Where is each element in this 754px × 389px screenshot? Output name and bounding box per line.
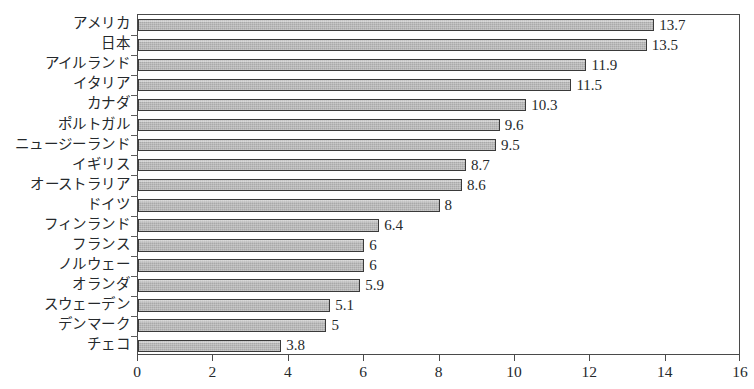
category-label: オランダ [0,277,130,292]
bar-value-label: 9.6 [505,116,524,134]
bar [138,119,500,131]
value-axis-tick [137,355,138,361]
bar [138,340,281,352]
bar-value-label: 6 [369,256,377,274]
bar-row: 8.7 [138,155,739,175]
value-axis: 0246810121416 [137,355,740,389]
bar-row: 5 [138,316,739,336]
value-axis-tick [439,355,440,361]
value-axis-tick-label: 12 [582,364,598,380]
category-label: ドイツ [0,197,130,212]
bar [138,99,526,111]
bar-row: 10.3 [138,95,739,115]
category-label: カナダ [0,96,130,111]
bar-row: 6 [138,236,739,256]
category-label: ポルトガル [0,117,130,132]
bar-value-label: 8.7 [471,156,490,174]
bar-value-label: 8.6 [467,176,486,194]
bar-row: 5.9 [138,276,739,296]
category-axis-tick [131,55,138,56]
bar-value-label: 9.5 [501,136,520,154]
bar [138,239,364,251]
category-axis-tick [131,296,138,297]
category-label: アイルランド [0,56,130,71]
plot-area: 13.713.511.911.510.39.69.58.78.686.4665.… [137,14,740,355]
value-axis-tick-label: 14 [657,364,673,380]
bar-row: 13.5 [138,35,739,55]
category-label: スウェーデン [0,297,130,312]
category-label: イタリア [0,76,130,91]
value-axis-tick-label: 10 [506,364,522,380]
bar-row: 11.9 [138,55,739,75]
value-axis-tick-label: 6 [359,364,367,380]
bar-row: 8.6 [138,175,739,195]
category-axis-tick [131,75,138,76]
category-label: 日本 [0,36,130,51]
category-axis-tick [131,336,138,337]
bar [138,159,466,171]
value-axis-tick-label: 8 [435,364,443,380]
bar-value-label: 5 [331,316,339,334]
bar-row: 3.8 [138,336,739,356]
category-label: イギリス [0,157,130,172]
bar [138,19,654,31]
value-axis-tick [514,355,515,361]
category-axis-tick [131,95,138,96]
bar-value-label: 13.7 [659,16,685,34]
bar [138,299,330,311]
bar-value-label: 11.9 [591,56,617,74]
bar [138,179,462,191]
bar [138,79,571,91]
category-label: アメリカ [0,16,130,31]
bar-value-label: 11.5 [576,76,602,94]
bar-row: 6 [138,256,739,276]
category-axis-tick [131,175,138,176]
bar-row: 13.7 [138,15,739,35]
bar [138,259,364,271]
category-label: ノルウェー [0,257,130,272]
bar-row: 9.5 [138,135,739,155]
category-axis-tick [131,196,138,197]
bar [138,139,496,151]
value-axis-tick-label: 16 [732,364,748,380]
category-label: ニュージーランド [0,137,130,152]
bar [138,279,360,291]
bar-chart: アメリカ日本アイルランドイタリアカナダポルトガルニュージーランドイギリスオースト… [0,0,754,389]
category-axis-tick [131,316,138,317]
category-label: オーストラリア [0,177,130,192]
value-axis-tick [212,355,213,361]
bar-row: 11.5 [138,75,739,95]
category-label: チェコ [0,337,130,352]
category-axis-tick [131,35,138,36]
category-axis-tick [131,155,138,156]
bar-value-label: 13.5 [652,36,678,54]
category-axis-tick [131,135,138,136]
value-axis-tick-label: 4 [284,364,292,380]
bar [138,219,379,231]
bar-value-label: 5.1 [335,296,354,314]
bar-row: 9.6 [138,115,739,135]
bar-row: 5.1 [138,296,739,316]
value-axis-tick [739,355,740,361]
value-axis-tick [665,355,666,361]
bar-value-label: 5.9 [365,276,384,294]
value-axis-tick [589,355,590,361]
bar [138,39,647,51]
bar-value-label: 6 [369,236,377,254]
category-axis-tick [131,256,138,257]
value-axis-tick-label: 2 [209,364,217,380]
bar [138,199,440,211]
category-axis-labels: アメリカ日本アイルランドイタリアカナダポルトガルニュージーランドイギリスオースト… [0,14,130,355]
category-label: デンマーク [0,317,130,332]
bar-value-label: 8 [445,196,453,214]
category-axis-tick [131,236,138,237]
category-label: フランス [0,237,130,252]
bar-value-label: 6.4 [384,216,403,234]
value-axis-tick [288,355,289,361]
category-label: フィンランド [0,217,130,232]
category-axis-tick [131,115,138,116]
bar-value-label: 3.8 [286,336,305,354]
bar [138,59,586,71]
value-axis-tick [363,355,364,361]
category-axis-tick [131,216,138,217]
